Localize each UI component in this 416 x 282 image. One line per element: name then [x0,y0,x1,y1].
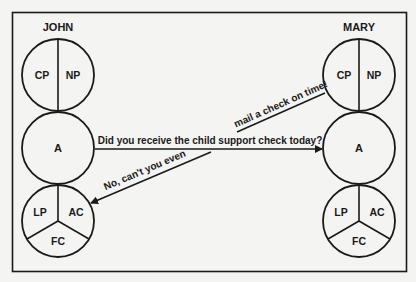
mary-parent-circle: CP NP [323,39,395,111]
john-ego-states: JOHN CP NP A LP AC FC [22,21,94,257]
mary-nurturing-parent-label: NP [367,69,382,81]
mary-name-label: MARY [343,21,376,33]
mary-adult-circle: A [323,112,395,184]
transactional-analysis-diagram: JOHN CP NP A LP AC FC MARY CP NP [0,0,416,282]
stimulus-transaction: Did you receive the child support check … [95,135,322,149]
mary-ego-states: MARY CP NP A LP AC FC [323,21,395,257]
response-label-lower: No, can't you even [102,148,187,192]
john-adult-label: A [54,142,62,154]
stimulus-label: Did you receive the child support check … [98,135,323,146]
john-parent-circle: CP NP [22,39,94,111]
mary-adapted-child-label: AC [369,206,385,218]
response-label-upper: mail a check on time! [232,78,329,129]
mary-adult-label: A [355,142,363,154]
response-arrow-lower [91,152,211,203]
mary-child-circle: LP AC FC [323,185,395,257]
john-child-circle: LP AC FC [22,185,94,257]
mary-free-child-label: FC [352,235,366,247]
john-adapted-child-label: AC [68,206,84,218]
john-adult-circle: A [22,112,94,184]
john-free-child-label: FC [51,235,65,247]
john-name-label: JOHN [43,21,74,33]
john-critical-parent-label: CP [35,69,50,81]
john-nurturing-parent-label: NP [66,69,81,81]
john-little-professor-label: LP [33,206,46,218]
mary-critical-parent-label: CP [337,69,352,81]
mary-little-professor-label: LP [334,206,347,218]
